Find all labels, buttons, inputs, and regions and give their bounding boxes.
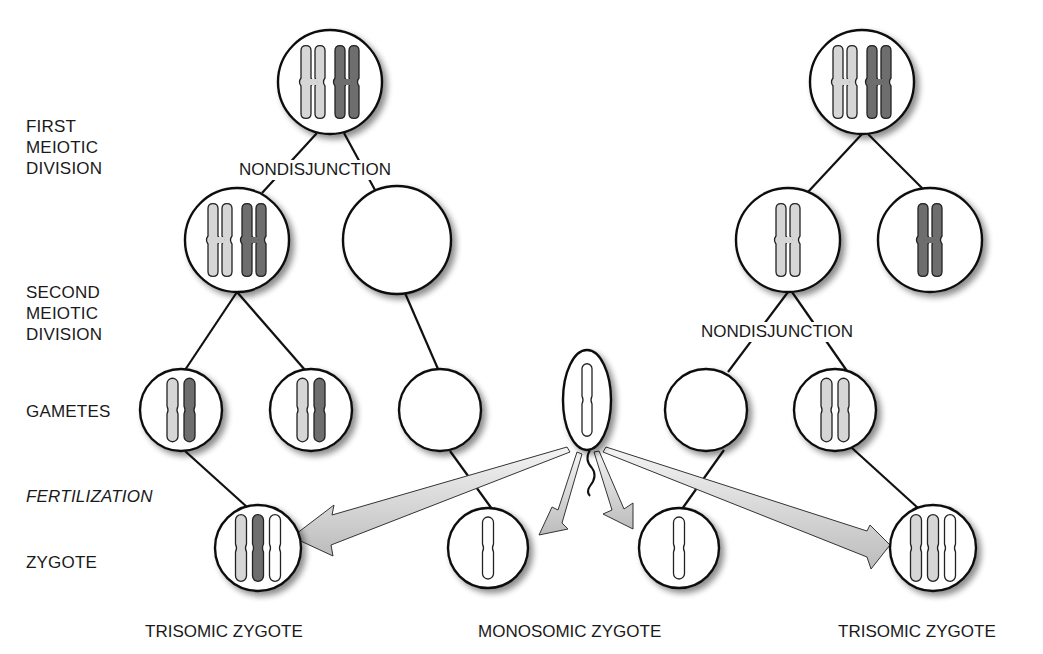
cell-membrane <box>810 30 914 134</box>
zygote-4-cell <box>890 505 976 591</box>
gamete-4-cell <box>665 369 747 451</box>
chromosome <box>945 515 956 582</box>
chromosome <box>270 515 281 582</box>
arrow-to-monosomic-zygote-left <box>539 452 582 535</box>
chromosome <box>582 364 592 437</box>
edge-parent-right-to-m1b <box>868 134 923 189</box>
cell-membrane <box>185 188 289 292</box>
cell-membrane <box>665 369 747 451</box>
chromosome <box>184 378 195 442</box>
left-m1-b-cell <box>343 186 451 294</box>
zygote-1-cell <box>215 505 301 591</box>
chromosome <box>838 378 849 442</box>
sperm-tail <box>587 450 594 496</box>
chromosome <box>297 378 308 442</box>
meiotic-nondisjunction-diagram: FIRST MEIOTIC DIVISION SECOND MEIOTIC DI… <box>0 0 1043 654</box>
gamete-2-cell <box>270 369 352 451</box>
chromosome <box>674 517 685 579</box>
edge-parent-right-to-m1a <box>808 134 862 192</box>
cell-membrane <box>343 186 451 294</box>
right-parent-cell <box>810 30 914 134</box>
arrow-to-monosomic-zygote-right <box>594 451 633 529</box>
cell-membrane <box>794 369 876 451</box>
right-m1-a-cell <box>736 188 840 292</box>
caption-trisomic-zygote-right: TRISOMIC ZYGOTE <box>838 622 996 642</box>
caption-trisomic-zygote-left: TRISOMIC ZYGOTE <box>145 622 303 642</box>
edge-m1b-to-gamete3 <box>405 293 438 369</box>
left-m1-a-cell <box>185 188 289 292</box>
caption-monosomic-zygote: MONOSOMIC ZYGOTE <box>478 622 661 642</box>
zygote-2-cell <box>448 508 528 588</box>
chromosome <box>253 515 264 582</box>
label-nondisjunction-first-division: NONDISJUNCTION <box>237 160 393 180</box>
edge-gamete5-to-zygote4 <box>852 448 918 508</box>
cell-membrane <box>270 369 352 451</box>
cell-membrane <box>399 369 481 451</box>
chromosome <box>167 378 178 442</box>
label-fertilization: FERTILIZATION <box>26 486 153 507</box>
label-zygote: ZYGOTE <box>26 552 97 573</box>
gamete-1-cell <box>140 369 222 451</box>
chromosome <box>314 378 325 442</box>
cell-membrane <box>140 369 222 451</box>
left-parent-cell <box>278 30 382 134</box>
edge-m1a-to-gamete1 <box>185 292 237 370</box>
zygote-3-cell <box>639 508 719 588</box>
label-nondisjunction-second-division: NONDISJUNCTION <box>699 322 855 342</box>
fertilization-arrows <box>292 447 890 569</box>
edge-m1a-to-gamete2 <box>237 292 305 370</box>
gamete-5-cell <box>794 369 876 451</box>
chromosome <box>236 515 247 582</box>
right-m1-b-cell <box>878 188 982 292</box>
cell-membrane <box>278 30 382 134</box>
label-first-meiotic-division: FIRST MEIOTIC DIVISION <box>26 116 102 179</box>
edge-gamete1-to-zygote1 <box>185 451 247 507</box>
chromosome <box>928 515 939 582</box>
gamete-3-cell <box>399 369 481 451</box>
diagram-canvas <box>0 0 1043 654</box>
chromosome <box>821 378 832 442</box>
chromosome <box>911 515 922 582</box>
label-second-meiotic-division: SECOND MEIOTIC DIVISION <box>26 282 102 345</box>
chromosome <box>483 517 494 579</box>
label-gametes: GAMETES <box>26 401 111 422</box>
